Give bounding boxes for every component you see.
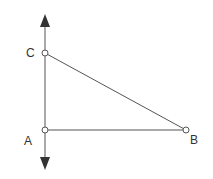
- triangle-diagram: C A B: [0, 0, 213, 179]
- segment-cb: [45, 53, 186, 130]
- arrow-up-icon: [40, 14, 50, 27]
- point-a: [42, 127, 48, 133]
- label-b: B: [190, 133, 198, 147]
- point-c: [42, 50, 48, 56]
- arrow-down-icon: [40, 157, 50, 170]
- point-b: [183, 127, 189, 133]
- label-a: A: [24, 134, 32, 148]
- label-c: C: [26, 46, 35, 60]
